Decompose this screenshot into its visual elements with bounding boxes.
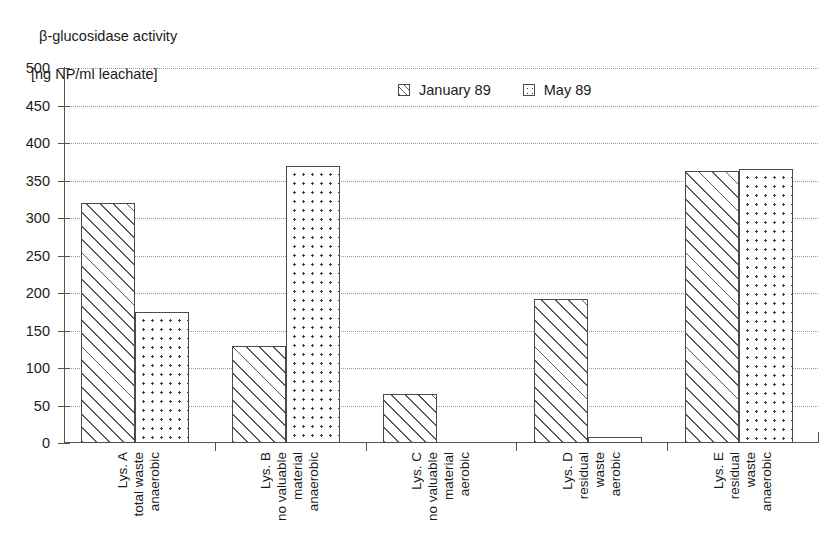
y-axis-label-350: 350 (0, 173, 50, 189)
gridline-400 (64, 143, 818, 144)
category-label-line: material (441, 452, 456, 500)
y-axis-tick-100 (58, 368, 70, 369)
bar-4-january-89 (534, 299, 588, 443)
bar-4-may-89 (588, 437, 642, 443)
y-axis-tick-250 (58, 256, 70, 257)
category-label-line: Lys. B (258, 452, 273, 489)
bar-5-may-89 (739, 169, 793, 443)
x-axis-category-label-3: Lys. Cno valuablematerialaerobic (409, 452, 473, 548)
y-axis-tick-450 (58, 106, 70, 107)
category-label-line: no valuable (274, 452, 289, 521)
category-label-line: waste (743, 452, 758, 487)
gridline-450 (64, 106, 818, 107)
category-label-line: anaerobic (759, 452, 774, 511)
y-axis-tick-500 (58, 68, 70, 69)
category-label-line: residual (576, 452, 591, 499)
category-label-line: Lys. C (409, 452, 424, 490)
category-label-line: Lys. E (711, 452, 726, 489)
y-axis-label-450: 450 (0, 98, 50, 114)
y-axis-label-200: 200 (0, 285, 50, 301)
category-label-line: no valuable (425, 452, 440, 521)
y-axis-tick-50 (58, 406, 70, 407)
category-label-line: aerobic (608, 452, 623, 496)
x-axis-tick-1 (215, 442, 216, 451)
category-label-line: total waste (131, 452, 146, 517)
y-axis-label-500: 500 (0, 60, 50, 76)
y-axis-tick-0 (58, 443, 70, 444)
category-label-line: anaerobic (306, 452, 321, 511)
y-axis-tick-400 (58, 143, 70, 144)
plot-area (64, 68, 818, 443)
x-axis-tick-2 (366, 442, 367, 451)
bar-2-january-89 (232, 346, 286, 444)
x-axis-category-label-4: Lys. Dresidualwasteaerobic (560, 452, 624, 548)
x-axis-tick-3 (516, 442, 517, 451)
category-label-line: Lys. D (560, 452, 575, 490)
y-axis-label-50: 50 (0, 398, 50, 414)
y-axis-tick-300 (58, 218, 70, 219)
x-axis-category-label-5: Lys. Eresidualwasteanaerobic (711, 452, 775, 548)
x-axis-end-tick (818, 432, 819, 443)
y-axis-tick-350 (58, 181, 70, 182)
gridline-500 (64, 68, 818, 69)
bar-5-january-89 (685, 171, 739, 443)
category-label-line: Lys. A (115, 452, 130, 488)
y-axis-tick-150 (58, 331, 70, 332)
y-axis-label-250: 250 (0, 248, 50, 264)
bar-3-january-89 (383, 394, 437, 443)
x-axis-tick-4 (667, 442, 668, 451)
y-axis-tick-200 (58, 293, 70, 294)
bar-1-may-89 (135, 312, 189, 443)
bar-1-january-89 (81, 203, 135, 443)
category-label-line: anaerobic (147, 452, 162, 511)
y-axis-label-100: 100 (0, 360, 50, 376)
category-label-line: material (290, 452, 305, 500)
y-axis-label-400: 400 (0, 135, 50, 151)
bar-2-may-89 (286, 166, 340, 444)
category-label-line: waste (592, 452, 607, 487)
category-label-line: aerobic (457, 452, 472, 496)
x-axis-category-label-2: Lys. Bno valuablematerialanaerobic (258, 452, 322, 548)
chart-title-line-1: β-glucosidase activity (39, 28, 177, 44)
y-axis-label-300: 300 (0, 210, 50, 226)
category-label-line: residual (727, 452, 742, 499)
x-axis-category-label-1: Lys. Atotal wasteanaerobic (115, 452, 163, 548)
y-axis-label-0: 0 (0, 435, 50, 451)
y-axis-label-150: 150 (0, 323, 50, 339)
